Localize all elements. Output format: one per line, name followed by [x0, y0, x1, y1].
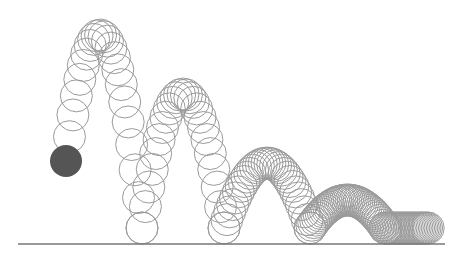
- ball-ghost: [129, 191, 161, 223]
- ball-ghost: [123, 182, 155, 214]
- ball: [50, 145, 82, 177]
- ball-ghost: [280, 176, 312, 208]
- ball-ghost: [109, 86, 141, 118]
- ball-ghost: [119, 154, 151, 186]
- ball-ghost: [201, 171, 233, 203]
- ball-trail: [53, 19, 444, 244]
- ball-ghost: [57, 99, 89, 131]
- bouncing-ball-diagram: [0, 0, 462, 260]
- ball-ghost: [126, 212, 158, 244]
- ball-ghost: [102, 54, 134, 86]
- ball-ghost: [112, 106, 144, 138]
